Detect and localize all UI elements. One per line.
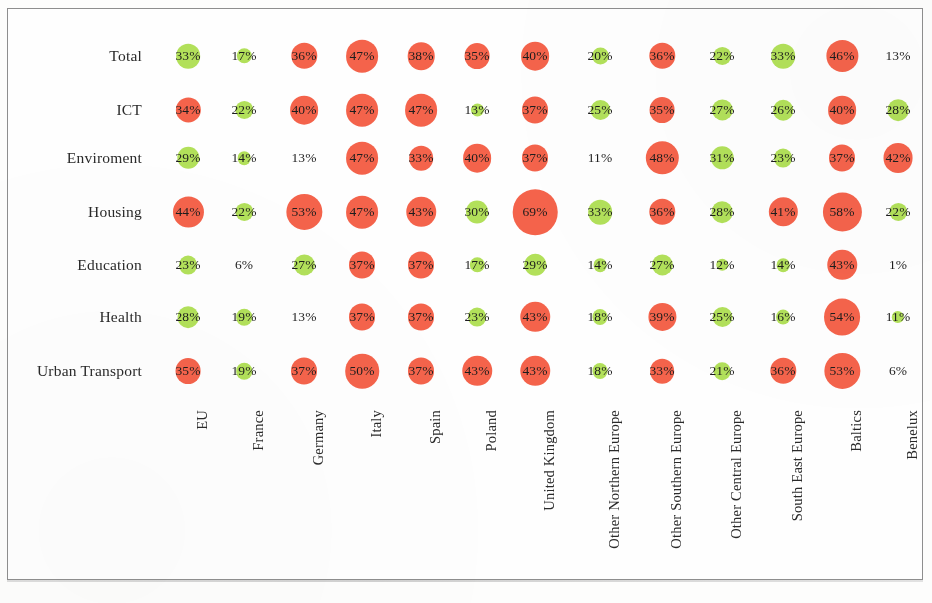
matrix-cell: 13% <box>464 102 489 118</box>
cell-value: 54% <box>829 309 854 325</box>
cell-value: 43% <box>464 363 489 379</box>
cell-value: 33% <box>175 48 200 64</box>
matrix-cell: 37% <box>349 309 374 325</box>
matrix-cell: 47% <box>349 150 374 166</box>
row-label: Housing <box>0 203 142 221</box>
row-label: Enviroment <box>0 149 142 167</box>
matrix-cell: 20% <box>587 48 612 64</box>
matrix-cell: 23% <box>464 309 489 325</box>
column-label: Spain <box>427 410 444 444</box>
matrix-cell: 28% <box>885 102 910 118</box>
matrix-cell: 38% <box>408 48 433 64</box>
cell-value: 1% <box>889 257 907 273</box>
matrix-cell: 23% <box>175 257 200 273</box>
matrix-cell: 43% <box>522 363 547 379</box>
matrix-cell: 37% <box>522 150 547 166</box>
cell-value: 14% <box>770 257 795 273</box>
cell-value: 11% <box>588 150 613 166</box>
matrix-cell: 17% <box>231 48 256 64</box>
matrix-cell: 37% <box>408 363 433 379</box>
cell-value: 36% <box>291 48 316 64</box>
matrix-cell: 47% <box>349 48 374 64</box>
cell-value: 28% <box>175 309 200 325</box>
cell-value: 47% <box>349 204 374 220</box>
cell-value: 6% <box>889 363 907 379</box>
matrix-cell: 19% <box>231 309 256 325</box>
cell-value: 33% <box>587 204 612 220</box>
cell-value: 36% <box>649 204 674 220</box>
row-label: ICT <box>0 101 142 119</box>
cell-value: 40% <box>291 102 316 118</box>
cell-value: 18% <box>587 363 612 379</box>
column-label: Poland <box>483 410 500 451</box>
cell-value: 25% <box>587 102 612 118</box>
matrix-cell: 11% <box>588 150 613 166</box>
cell-value: 22% <box>231 102 256 118</box>
cell-value: 47% <box>349 48 374 64</box>
column-label: Other Northern Europe <box>606 410 623 549</box>
cell-value: 33% <box>770 48 795 64</box>
matrix-cell: 18% <box>587 363 612 379</box>
cell-value: 29% <box>175 150 200 166</box>
cell-value: 58% <box>829 204 854 220</box>
column-label: France <box>250 410 267 451</box>
column-label: Other Southern Europe <box>668 410 685 549</box>
matrix-cell: 40% <box>829 102 854 118</box>
matrix-cell: 33% <box>770 48 795 64</box>
matrix-cell: 13% <box>885 48 910 64</box>
matrix-cell: 35% <box>464 48 489 64</box>
cell-value: 20% <box>587 48 612 64</box>
cell-value: 43% <box>408 204 433 220</box>
cell-value: 43% <box>522 363 547 379</box>
cell-value: 25% <box>709 309 734 325</box>
matrix-cell: 36% <box>291 48 316 64</box>
column-label: South East Europe <box>789 410 806 521</box>
matrix-cell: 6% <box>889 363 907 379</box>
cell-value: 14% <box>231 150 256 166</box>
column-label: Other Central Europe <box>728 410 745 539</box>
matrix-cell: 36% <box>770 363 795 379</box>
column-label: Italy <box>368 410 385 438</box>
matrix-cell: 27% <box>649 257 674 273</box>
matrix-cell: 27% <box>709 102 734 118</box>
matrix-cell: 46% <box>829 48 854 64</box>
matrix-cell: 14% <box>231 150 256 166</box>
matrix-cell: 25% <box>587 102 612 118</box>
matrix-cell: 29% <box>522 257 547 273</box>
cell-value: 22% <box>231 204 256 220</box>
matrix-cell: 43% <box>408 204 433 220</box>
cell-value: 37% <box>829 150 854 166</box>
matrix-cell: 23% <box>770 150 795 166</box>
cell-value: 26% <box>770 102 795 118</box>
matrix-cell: 28% <box>709 204 734 220</box>
matrix-cell: 13% <box>291 309 316 325</box>
matrix-cell: 69% <box>522 204 547 220</box>
matrix-cell: 47% <box>349 102 374 118</box>
column-label: Germany <box>310 410 327 465</box>
matrix-cell: 37% <box>522 102 547 118</box>
cell-value: 35% <box>464 48 489 64</box>
matrix-cell: 40% <box>464 150 489 166</box>
column-label: Benelux <box>904 410 921 460</box>
matrix-cell: 14% <box>587 257 612 273</box>
cell-value: 33% <box>649 363 674 379</box>
cell-value: 31% <box>709 150 734 166</box>
matrix-cell: 39% <box>649 309 674 325</box>
matrix-cell: 13% <box>291 150 316 166</box>
cell-value: 33% <box>408 150 433 166</box>
matrix-cell: 43% <box>522 309 547 325</box>
cell-value: 22% <box>709 48 734 64</box>
cell-value: 46% <box>829 48 854 64</box>
matrix-cell: 16% <box>770 309 795 325</box>
cell-value: 30% <box>464 204 489 220</box>
matrix-cell: 37% <box>408 257 433 273</box>
matrix-cell: 50% <box>349 363 374 379</box>
cell-value: 47% <box>349 102 374 118</box>
matrix-cell: 22% <box>231 102 256 118</box>
matrix-cell: 37% <box>291 363 316 379</box>
matrix-cell: 33% <box>587 204 612 220</box>
cell-value: 23% <box>464 309 489 325</box>
matrix-cell: 53% <box>291 204 316 220</box>
matrix-cell: 17% <box>464 257 489 273</box>
matrix-cell: 36% <box>649 204 674 220</box>
